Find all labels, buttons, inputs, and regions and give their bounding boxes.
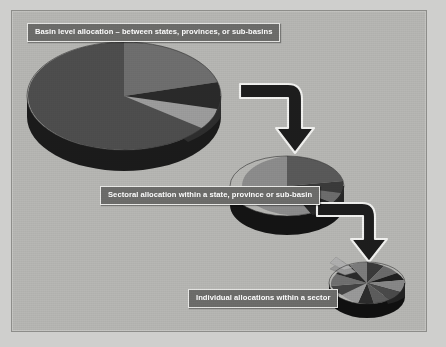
individual-pie bbox=[329, 257, 405, 318]
caption-individual-allocations: Individual allocations within a sector bbox=[188, 289, 338, 308]
arrow-shape bbox=[240, 84, 314, 153]
figure-page: Basin level allocation – between states,… bbox=[0, 0, 446, 347]
pie-slice-2 bbox=[287, 156, 343, 186]
arrow-shape bbox=[317, 203, 387, 262]
elbow-arrow-1 bbox=[240, 84, 314, 153]
pie-top-face bbox=[28, 42, 221, 150]
figure-frame: Basin level allocation – between states,… bbox=[11, 10, 427, 332]
caption-basin-level: Basin level allocation – between states,… bbox=[27, 23, 280, 42]
diagram-canvas bbox=[12, 11, 426, 331]
elbow-arrow-2 bbox=[317, 203, 387, 262]
caption-sectoral-allocation: Sectoral allocation within a state, prov… bbox=[100, 186, 320, 205]
basin-level-pie bbox=[27, 42, 221, 171]
